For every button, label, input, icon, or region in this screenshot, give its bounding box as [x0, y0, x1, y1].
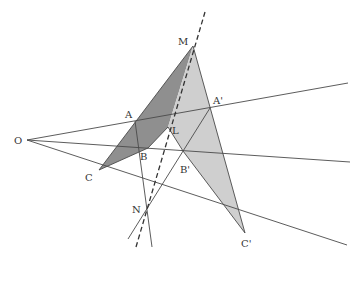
point-label-c-prime: C'	[241, 238, 251, 249]
point-label-b-prime: B'	[180, 164, 190, 175]
point-label-a-prime: A'	[212, 95, 223, 106]
point-label-b: B	[140, 151, 147, 162]
point-label-m: M	[178, 36, 188, 47]
point-label-o: O	[14, 135, 22, 146]
point-label-a: A	[124, 109, 133, 120]
point-label-n: N	[132, 204, 141, 215]
point-label-l: L	[172, 125, 179, 136]
point-label-c: C	[85, 172, 93, 183]
desargues-diagram: OABCA'B'C'MLN	[0, 0, 359, 289]
